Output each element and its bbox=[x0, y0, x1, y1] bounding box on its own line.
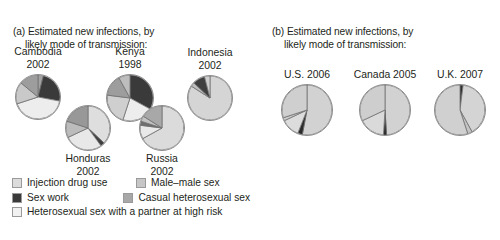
panel-a-legend: Injection drug useMale–male sexSex workC… bbox=[12, 176, 250, 220]
pie-country-year: Canada 2005 bbox=[354, 69, 416, 80]
legend-item-label: Sex work bbox=[27, 191, 69, 206]
legend-item: Casual heterosexual sex bbox=[123, 191, 250, 206]
legend-item-label: Heterosexual sex with a partner at high … bbox=[27, 205, 222, 220]
legend-swatch-icon bbox=[12, 207, 22, 217]
pie-chart-label: U.K. 2007 bbox=[415, 69, 500, 82]
pie-country: Cambodia bbox=[14, 46, 61, 57]
pie-chart-label: Russia2002 bbox=[117, 153, 207, 178]
pie-year: 2002 bbox=[150, 166, 173, 177]
pie-year: 2002 bbox=[76, 166, 99, 177]
pie-chart: Male–male sex (MMS)OtherInjection drug u… bbox=[359, 84, 411, 136]
legend-item-label: Injection drug use bbox=[27, 176, 107, 191]
pie-chart: Injection drug useHeterosexual sex with … bbox=[139, 105, 185, 151]
pie-country-year: U.S. 2006 bbox=[284, 69, 330, 80]
pie-year: 2002 bbox=[198, 60, 221, 71]
pie-chart-label: Kenya1998 bbox=[85, 46, 175, 71]
legend-item: Injection drug use bbox=[12, 176, 136, 191]
pie-country: Kenya bbox=[115, 46, 144, 57]
pie-chart: Male–male sex (MMS)OtherInjection drug u… bbox=[281, 84, 333, 136]
legend-item: Male–male sex bbox=[136, 176, 220, 191]
pie-country: Honduras bbox=[65, 153, 110, 164]
legend-item: Sex work bbox=[12, 191, 123, 206]
panel-a: (a) Estimated new infections, by likely … bbox=[0, 0, 252, 240]
pie-chart: Male–male sexSex workHeterosexual sex wi… bbox=[15, 74, 61, 120]
panel-a-title-line1: (a) Estimated new infections, by bbox=[13, 26, 154, 37]
figure-root: (a) Estimated new infections, by likely … bbox=[0, 0, 500, 240]
legend-swatch-icon bbox=[12, 193, 22, 203]
panel-b: (b) Estimated new infections, by likely … bbox=[252, 0, 500, 240]
legend-item: Heterosexual sex with a partner at high … bbox=[12, 205, 222, 220]
pie-country-year: U.K. 2007 bbox=[437, 69, 483, 80]
panel-b-title-line1: (b) Estimated new infections, by bbox=[272, 26, 413, 37]
panel-b-title: (b) Estimated new infections, by likely … bbox=[272, 12, 492, 65]
pie-chart-label: Indonesia2002 bbox=[165, 47, 255, 72]
pie-year: 1998 bbox=[118, 59, 141, 70]
legend-row: Injection drug useMale–male sex bbox=[12, 176, 250, 191]
pie-chart-label: Cambodia2002 bbox=[0, 46, 83, 71]
legend-row: Sex workCasual heterosexual sex bbox=[12, 191, 250, 206]
pie-chart: OtherMale–male sex (MMS)Injection drug u… bbox=[434, 84, 486, 136]
pie-country: Indonesia bbox=[187, 47, 232, 58]
legend-row: Heterosexual sex with a partner at high … bbox=[12, 205, 250, 220]
legend-swatch-icon bbox=[12, 178, 22, 188]
legend-swatch-icon bbox=[123, 193, 133, 203]
pie-country: Russia bbox=[146, 153, 178, 164]
legend-item-label: Male–male sex bbox=[151, 176, 220, 191]
legend-item-label: Casual heterosexual sex bbox=[138, 191, 250, 206]
pie-chart-label: U.S. 2006 bbox=[262, 69, 352, 82]
legend-swatch-icon bbox=[136, 178, 146, 188]
pie-chart: Heterosexual sex with a partner at high … bbox=[187, 75, 233, 121]
panel-b-title-line2: likely mode of transmission: bbox=[272, 38, 492, 51]
pie-year: 2002 bbox=[26, 59, 49, 70]
pie-slice: Male–male sex (MMS) bbox=[385, 85, 410, 135]
pie-chart: Heterosexual sex with a partner at high … bbox=[65, 105, 111, 151]
